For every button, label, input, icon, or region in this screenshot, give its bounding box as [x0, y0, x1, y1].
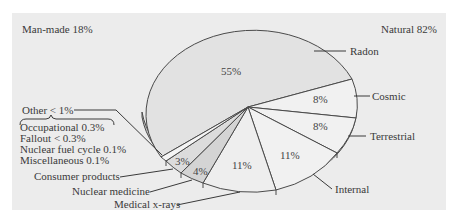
natural-header: Natural 82%: [381, 23, 437, 35]
pct-internal: 11%: [280, 149, 300, 161]
pct-consumer: 3%: [175, 155, 190, 167]
label-radon: Radon: [350, 45, 379, 57]
leader-consumer: [120, 169, 173, 177]
leader-nuclear-medicine: [150, 180, 192, 192]
label-consumer-products: Consumer products: [34, 170, 120, 182]
leader-medical: [177, 192, 240, 205]
leader-internal: [313, 174, 332, 189]
label-other: Other < 1%: [22, 104, 73, 116]
pct-cosmic: 8%: [313, 93, 328, 105]
pct-radon: 55%: [221, 65, 241, 77]
pct-terrestrial: 8%: [313, 120, 328, 132]
label-nuclear-medicine: Nuclear medicine: [72, 185, 150, 197]
man-made-header: Man-made 18%: [22, 23, 93, 35]
label-terrestrial: Terrestrial: [370, 130, 415, 142]
label-medical-xrays: Medical x-rays: [114, 198, 180, 210]
label-misc: Miscellaneous 0.1%: [20, 154, 109, 166]
pct-medical: 11%: [232, 159, 252, 171]
pct-nuclear-medicine: 4%: [193, 165, 208, 177]
pie-chart: Man-made 18% Natural 82% 55% 8% 8% 11% 1…: [0, 0, 452, 224]
label-cosmic: Cosmic: [372, 90, 406, 102]
label-internal: Internal: [335, 183, 369, 195]
